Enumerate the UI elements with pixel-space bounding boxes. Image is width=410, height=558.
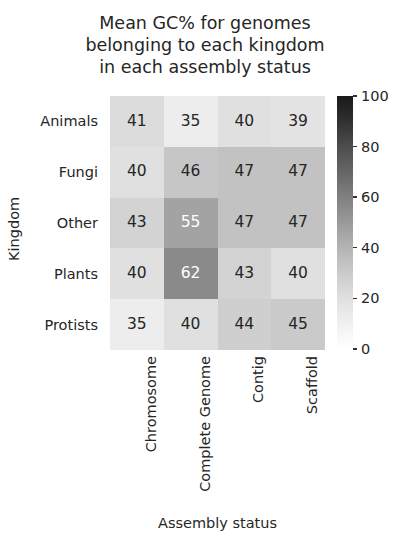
heatmap-cell: 47 (218, 147, 272, 198)
x-axis-tick-labels: ChromosomeComplete GenomeContigScaffold (110, 350, 325, 510)
y-tick-label: Animals (40, 113, 98, 129)
heatmap-cell: 43 (218, 248, 272, 299)
x-tick-label: Chromosome (143, 356, 159, 452)
x-tick-label: Scaffold (304, 356, 320, 414)
heatmap-cell-value: 35 (181, 114, 201, 130)
heatmap-cell-value: 40 (127, 266, 147, 282)
colorbar-tick-value: 20 (361, 290, 379, 306)
x-tick-label: Complete Genome (197, 356, 213, 492)
chart-title: Mean GC% for genomes belonging to each k… (30, 12, 380, 78)
heatmap-figure: Mean GC% for genomes belonging to each k… (0, 0, 410, 558)
heatmap-cell-value: 45 (288, 317, 308, 333)
colorbar-tick-mark (353, 196, 357, 197)
colorbar-tick-mark (353, 146, 357, 147)
heatmap-cell: 40 (110, 147, 164, 198)
colorbar-tick-value: 0 (361, 341, 370, 357)
heatmap-cell-value: 43 (235, 266, 255, 282)
heatmap-cell: 47 (271, 147, 325, 198)
y-tick-label: Plants (54, 266, 98, 282)
heatmap-cell-value: 47 (235, 215, 255, 231)
colorbar-gradient (337, 96, 353, 349)
colorbar-tick: 80 (353, 139, 379, 155)
heatmap-cell-value: 40 (235, 114, 255, 130)
x-axis-title: Assembly status (110, 515, 325, 531)
heatmap-cell: 41 (110, 96, 164, 147)
heatmap-cell: 35 (164, 96, 218, 147)
heatmap-cell-value: 43 (127, 215, 147, 231)
colorbar-tick-mark (353, 348, 357, 349)
heatmap-cell: 40 (218, 96, 272, 147)
heatmap-cell-value: 47 (288, 164, 308, 180)
heatmap-cell: 35 (110, 299, 164, 350)
colorbar-tick-mark (353, 95, 357, 96)
heatmap-grid: 4135403940464747435547474062434035404445 (110, 96, 325, 350)
heatmap-cell-value: 40 (288, 266, 308, 282)
heatmap-cell-value: 62 (181, 266, 201, 282)
heatmap-cell-value: 39 (288, 114, 308, 130)
heatmap-cell: 46 (164, 147, 218, 198)
colorbar-tick-value: 80 (361, 139, 379, 155)
heatmap-cell: 40 (164, 299, 218, 350)
colorbar-tick: 0 (353, 341, 370, 357)
heatmap-cell-value: 47 (288, 215, 308, 231)
heatmap-cell: 40 (271, 248, 325, 299)
heatmap-cell-value: 40 (127, 164, 147, 180)
colorbar-tick: 40 (353, 240, 379, 256)
heatmap-cell-value: 40 (181, 317, 201, 333)
y-tick-label: Protists (44, 317, 98, 333)
heatmap-cell: 44 (218, 299, 272, 350)
heatmap-cell: 39 (271, 96, 325, 147)
colorbar-tick-value: 100 (361, 88, 389, 104)
colorbar-tick-mark (353, 247, 357, 248)
heatmap-cell: 47 (218, 198, 272, 249)
plot-area: 4135403940464747435547474062434035404445 (110, 96, 325, 350)
heatmap-cell-value: 44 (235, 317, 255, 333)
colorbar-tick: 20 (353, 290, 379, 306)
colorbar-tick: 60 (353, 189, 379, 205)
y-axis-tick-labels: AnimalsFungiOtherPlantsProtists (0, 96, 104, 350)
y-tick-label: Other (57, 215, 98, 231)
heatmap-cell-value: 41 (127, 114, 147, 130)
colorbar-tick: 100 (353, 88, 389, 104)
colorbar-tick-value: 60 (361, 189, 379, 205)
heatmap-cell: 45 (271, 299, 325, 350)
heatmap-cell-value: 55 (181, 215, 201, 231)
colorbar-tick-mark (353, 298, 357, 299)
heatmap-cell: 40 (110, 248, 164, 299)
heatmap-cell-value: 47 (235, 164, 255, 180)
heatmap-cell: 47 (271, 198, 325, 249)
x-tick-label: Contig (250, 356, 266, 403)
colorbar-tick-value: 40 (361, 240, 379, 256)
heatmap-cell-value: 46 (181, 164, 201, 180)
heatmap-cell-value: 35 (127, 317, 147, 333)
heatmap-cell: 62 (164, 248, 218, 299)
heatmap-cell: 55 (164, 198, 218, 249)
heatmap-cell: 43 (110, 198, 164, 249)
colorbar-tick-labels: 100806040200 (353, 96, 410, 349)
y-tick-label: Fungi (59, 164, 98, 180)
